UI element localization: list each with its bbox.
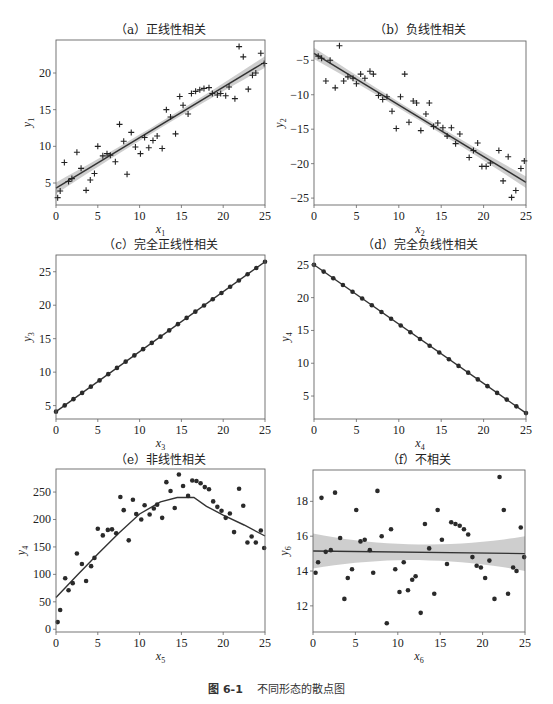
data-point [384,621,389,626]
y-tick-label: 14 [296,564,308,578]
data-point [397,590,402,595]
data-point [401,560,406,565]
data-point [483,576,488,581]
data-point [362,537,367,542]
data-point [514,569,519,574]
y-axis-label: y6 [277,546,293,556]
data-point [333,490,338,495]
data-point [371,570,376,575]
plot-area-f: 051015202512141618x6y6 [0,0,553,704]
x-axis-label: x6 [413,649,423,665]
x-tick-label: 20 [477,636,489,650]
data-point [466,532,471,537]
data-point [389,527,394,532]
data-point [462,527,467,532]
data-point [474,564,479,569]
data-point [423,522,428,527]
chart-panel-f: （f）不相关 051015202512141618x6y6 [0,0,553,704]
data-point [316,560,321,565]
data-point [497,475,502,480]
data-point [435,508,440,513]
data-point [368,548,373,553]
y-tick-label: 12 [296,599,308,613]
y-tick-label: 18 [296,494,308,508]
data-point [323,550,328,555]
data-point [427,546,432,551]
data-point [418,611,423,616]
data-point [410,577,415,582]
data-point [375,489,380,494]
data-point [329,548,334,553]
data-point [345,576,350,581]
data-point [338,536,343,541]
data-point [342,597,347,602]
data-point [406,588,411,593]
data-point [354,508,359,513]
data-point [350,567,355,572]
x-tick-label: 5 [352,636,358,650]
figure-caption-text: 不同形态的散点图 [257,683,345,696]
data-point [457,523,462,528]
data-point [432,591,437,596]
data-point [413,574,418,579]
data-point [319,496,324,501]
data-point [470,555,475,560]
x-tick-label: 15 [434,636,446,650]
data-point [393,567,398,572]
data-point [445,562,450,567]
x-tick-label: 0 [310,636,316,650]
data-point [440,537,445,542]
data-point [502,508,507,513]
data-point [379,534,384,539]
data-point [449,520,454,525]
data-point [492,597,497,602]
data-point [358,539,363,544]
figure-caption: 图 6-1不同形态的散点图 [0,680,553,696]
data-point [487,558,492,563]
x-tick-label: 10 [392,636,404,650]
figure-number: 图 6-1 [208,683,243,696]
data-point [479,565,484,570]
data-point [522,555,527,560]
data-point [511,565,516,570]
data-point [313,570,318,575]
data-point [453,522,458,527]
y-tick-label: 16 [296,529,308,543]
data-point [518,525,523,530]
data-point [506,591,511,596]
x-tick-label: 25 [519,636,531,650]
